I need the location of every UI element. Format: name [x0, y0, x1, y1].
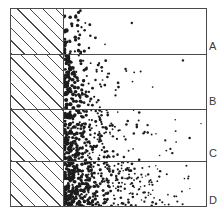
- hatch-region-d: [11, 162, 64, 207]
- dot-field-a: [64, 9, 206, 54]
- band-label-c: C: [209, 148, 220, 159]
- band-d: [11, 161, 206, 207]
- plot-frame: [10, 8, 207, 207]
- band-label-b: B: [209, 96, 220, 107]
- band-a: [11, 9, 206, 54]
- band-c: [11, 109, 206, 161]
- hatch-region-b: [11, 55, 64, 109]
- hatch-region-c: [11, 110, 64, 161]
- hatch-region-a: [11, 9, 64, 54]
- dot-field-b: [64, 55, 206, 109]
- band-b: [11, 54, 206, 109]
- band-label-d: D: [209, 195, 220, 206]
- dot-field-c: [64, 110, 206, 161]
- diffusion-diagram: A B C D: [0, 0, 220, 218]
- dot-field-d: [64, 162, 206, 207]
- band-label-a: A: [209, 41, 220, 52]
